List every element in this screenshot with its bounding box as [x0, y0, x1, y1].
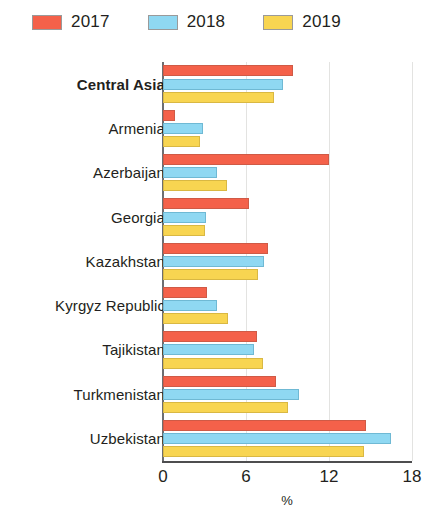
bar-2018 — [163, 212, 206, 223]
x-axis-line — [162, 461, 412, 463]
bar-group: Kazakhstan — [0, 239, 427, 283]
category-label: Georgia — [111, 195, 165, 239]
legend-item: 2017 — [32, 12, 110, 32]
bar-2018 — [163, 167, 217, 178]
bar-2018 — [163, 344, 254, 355]
bar-2017 — [163, 287, 207, 298]
bar-2017 — [163, 420, 366, 431]
bar-set — [163, 195, 427, 239]
bar-group: Turkmenistan — [0, 372, 427, 416]
bar-set — [163, 62, 427, 106]
category-label: Kyrgyz Republic — [55, 283, 165, 327]
bar-set — [163, 328, 427, 372]
category-label: Tajikistan — [102, 328, 165, 372]
category-label: Armenia — [108, 106, 165, 150]
bar-2019 — [163, 225, 205, 236]
legend-swatch-icon — [32, 15, 62, 30]
bar-2019 — [163, 136, 200, 147]
legend-swatch-icon — [263, 15, 293, 30]
bar-2019 — [163, 358, 263, 369]
chart-legend: 201720182019 — [0, 0, 427, 44]
bar-set — [163, 416, 427, 460]
bar-set — [163, 106, 427, 150]
bar-set — [163, 151, 427, 195]
x-axis-ticks: 061218 — [0, 467, 427, 493]
bar-2018 — [163, 300, 217, 311]
bar-2019 — [163, 269, 258, 280]
bar-2019 — [163, 402, 288, 413]
legend-item: 2019 — [263, 12, 341, 32]
bar-group: Azerbaijan — [0, 151, 427, 195]
x-tick-label: 12 — [320, 467, 339, 487]
category-label: Kazakhstan — [86, 239, 165, 283]
x-axis-title: % — [162, 493, 412, 508]
x-tick-label: 6 — [241, 467, 250, 487]
legend-swatch-icon — [148, 15, 178, 30]
bar-2017 — [163, 154, 329, 165]
bar-group: Georgia — [0, 195, 427, 239]
legend-item: 2018 — [148, 12, 226, 32]
bar-group: Armenia — [0, 106, 427, 150]
bar-2019 — [163, 180, 227, 191]
legend-label: 2019 — [302, 12, 341, 32]
bar-2018 — [163, 389, 299, 400]
bar-2019 — [163, 446, 364, 457]
legend-label: 2017 — [71, 12, 110, 32]
x-tick-label: 0 — [158, 467, 167, 487]
bar-set — [163, 239, 427, 283]
x-tick-label: 18 — [403, 467, 422, 487]
bar-set — [163, 283, 427, 327]
bar-group: Central Asia — [0, 62, 427, 106]
bar-rows: Central AsiaArmeniaAzerbaijanGeorgiaKaza… — [0, 62, 427, 461]
bar-2019 — [163, 313, 228, 324]
bar-set — [163, 372, 427, 416]
legend-label: 2018 — [187, 12, 226, 32]
bar-2018 — [163, 256, 264, 267]
bar-2018 — [163, 433, 391, 444]
bar-2018 — [163, 79, 283, 90]
bar-2017 — [163, 110, 175, 121]
chart-plot-area: Central AsiaArmeniaAzerbaijanGeorgiaKaza… — [0, 52, 427, 510]
bar-2018 — [163, 123, 203, 134]
bar-2017 — [163, 243, 268, 254]
category-label: Uzbekistan — [90, 416, 165, 460]
category-label: Central Asia — [77, 62, 165, 106]
bar-2017 — [163, 198, 249, 209]
bar-group: Tajikistan — [0, 328, 427, 372]
bar-group: Uzbekistan — [0, 416, 427, 460]
bar-2019 — [163, 92, 274, 103]
category-label: Azerbaijan — [93, 151, 165, 195]
bar-2017 — [163, 331, 257, 342]
bar-group: Kyrgyz Republic — [0, 283, 427, 327]
bar-2017 — [163, 376, 276, 387]
category-label: Turkmenistan — [73, 372, 165, 416]
bar-2017 — [163, 65, 293, 76]
